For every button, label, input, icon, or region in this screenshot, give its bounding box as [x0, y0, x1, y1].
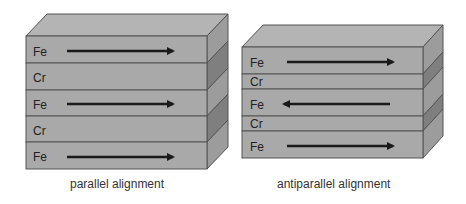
layer-label: Fe [250, 56, 264, 70]
layer-label: Fe [33, 45, 47, 59]
layer-label: Fe [33, 150, 47, 164]
layer-label: Fe [250, 140, 264, 154]
antiparallel-alignment-caption: antiparallel alignment [277, 177, 390, 191]
layer-cr [26, 63, 207, 90]
layer-fe [26, 36, 207, 63]
antiparallel-stack: Fe Cr Fe Cr Fe [242, 25, 443, 158]
layer-label: Cr [33, 124, 46, 138]
layer-fe [242, 89, 423, 116]
layer-fe [242, 47, 423, 74]
layer-label: Cr [33, 71, 46, 85]
layer-cr [26, 116, 207, 142]
layer-cr [242, 116, 423, 131]
top-face [26, 14, 228, 36]
layer-label: Cr [250, 75, 263, 89]
layer-cr [242, 74, 423, 89]
layer-fe [242, 131, 423, 158]
layer-label: Cr [250, 117, 263, 131]
parallel-stack: Fe Cr Fe Cr Fe [26, 14, 228, 169]
top-face [242, 25, 443, 47]
parallel-alignment-caption: parallel alignment [70, 177, 164, 191]
layer-fe [26, 142, 207, 169]
diagram-canvas: Fe Cr Fe Cr Fe Fe Cr Fe Cr Fe [0, 0, 466, 204]
layer-label: Fe [250, 98, 264, 112]
layer-label: Fe [33, 98, 47, 112]
